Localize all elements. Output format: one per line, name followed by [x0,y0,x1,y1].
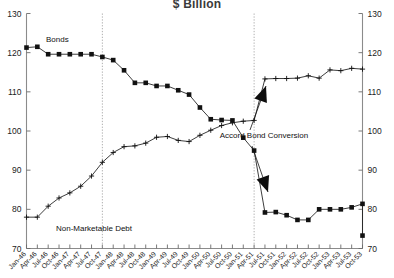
y-axis-tick-label: 130 [368,9,382,19]
y-axis-tick-label: 120 [7,48,21,58]
data-point-marker [122,68,127,73]
data-point-marker [273,76,278,81]
y-axis-tick-label: 100 [7,126,21,136]
y-axis-tick-label: 90 [368,165,378,175]
y-axis-tick-label: 90 [12,165,22,175]
data-point-marker [133,81,138,86]
data-point-marker [67,190,72,195]
data-point-marker [121,144,126,149]
data-point-marker [24,215,29,220]
data-point-marker [208,117,213,122]
y-axis-tick-label: 100 [368,126,382,136]
axes-group [27,14,363,249]
annotation-arrowhead [254,86,267,103]
data-point-marker [306,218,311,223]
x-axis-labels: Jan-46Apr-46Jul-46Oct-46Jan-47Apr-47Jul-… [7,250,363,271]
data-point-marker [143,81,148,86]
data-point-marker [349,66,354,71]
data-point-marker [89,52,94,57]
data-point-marker [35,44,40,49]
bonds-series-label: Bonds [46,35,69,44]
data-point-marker [100,55,105,60]
data-point-marker [176,138,181,143]
data-point-marker [197,133,202,138]
data-point-marker [263,210,268,215]
data-point-marker [68,52,73,57]
data-point-marker [360,202,365,207]
data-point-marker [273,210,278,215]
data-point-marker [360,233,365,238]
data-point-marker [186,139,191,144]
y-axis-tick-label: 110 [368,87,382,97]
data-point-marker [306,73,311,78]
data-point-marker [338,68,343,73]
y-axis-tick-label: 120 [368,48,382,58]
chart-plot-area: 130120110100908070 130120110100908070 Ja… [0,0,394,278]
y-axis-tick-label: 80 [12,204,22,214]
data-point-marker [24,45,29,50]
data-point-marker [198,105,203,110]
data-point-marker [284,76,289,81]
data-point-marker [360,67,365,72]
chart-container: $ Billion 130120110100908070 13012011010… [0,0,394,278]
data-point-marker [208,128,213,133]
data-point-marker [143,141,148,146]
y-axis-left-labels: 130120110100908070 [7,9,21,254]
data-point-marker [349,205,354,210]
series-bonds [24,44,365,237]
data-point-marker [262,76,267,81]
data-point-marker [57,52,62,57]
data-point-marker [295,218,300,223]
data-point-marker [187,92,192,97]
data-point-marker [78,52,83,57]
series-non-marketable-debt [24,66,365,220]
data-series-group [24,44,365,237]
data-point-marker [111,58,116,63]
accord-bond-conversion: Accord Bond Conversion [220,131,309,140]
y-axis-right-labels: 130120110100908070 [368,9,382,254]
data-point-marker [219,123,224,128]
data-point-marker [284,213,289,218]
data-point-marker [339,207,344,212]
y-axis-tick-label: 110 [8,87,22,97]
data-point-marker [46,52,51,57]
non-marketable-debt-series-label: Non-Marketable Debt [56,224,133,233]
data-point-marker [219,118,224,123]
y-axis-tick-label: 70 [368,244,378,254]
data-point-marker [165,134,170,139]
data-point-marker [295,76,300,81]
data-point-marker [165,84,170,89]
y-axis-tick-label: 130 [7,9,21,19]
data-point-marker [317,207,322,212]
data-point-marker [328,207,333,212]
y-axis-tick-label: 80 [368,204,378,214]
annotation-text-group: Accord Bond ConversionBondsNon-Marketabl… [46,35,308,233]
data-point-marker [176,88,181,93]
data-point-marker [154,84,159,89]
data-point-marker [154,135,159,140]
data-point-marker [132,143,137,148]
data-point-marker [241,119,246,124]
